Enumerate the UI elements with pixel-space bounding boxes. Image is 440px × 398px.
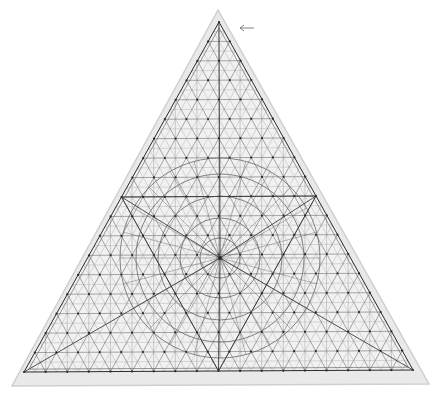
arrow-mark-icon: [240, 25, 254, 31]
paper-sheet: [12, 10, 429, 386]
drawing-canvas: [0, 0, 440, 398]
triangle-construction-drawing: [0, 0, 440, 398]
